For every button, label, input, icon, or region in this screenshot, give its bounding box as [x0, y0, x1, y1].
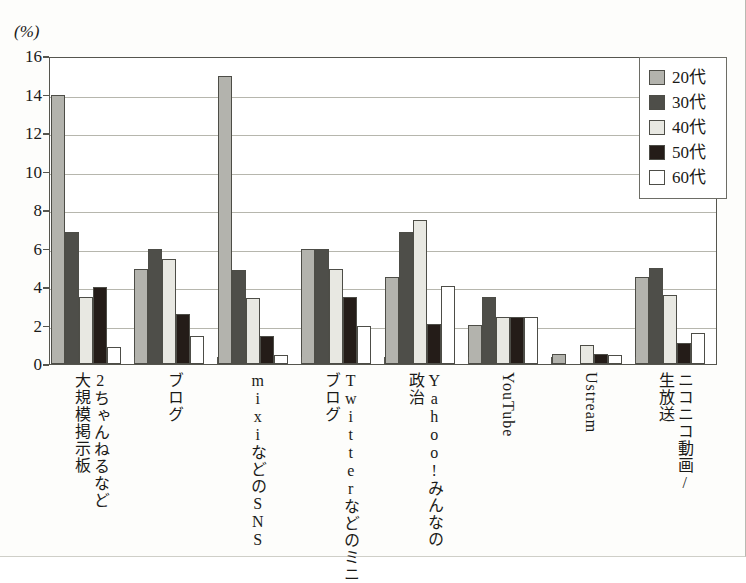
- bar: [510, 317, 524, 364]
- x-category-label: Yahoo!みんなの政治: [383, 372, 467, 550]
- legend-label: 50代: [672, 144, 706, 161]
- legend: 20代30代40代50代60代: [639, 57, 727, 199]
- legend-swatch-icon: [649, 170, 665, 185]
- legend-label: 30代: [672, 94, 706, 111]
- bar-group: [468, 58, 552, 364]
- bar: [677, 343, 691, 364]
- x-category-label-line: mixiなどのSNS: [248, 372, 267, 549]
- legend-swatch-icon: [649, 95, 665, 110]
- bar: [468, 325, 482, 364]
- bar: [218, 76, 232, 364]
- bar: [232, 270, 246, 364]
- x-category-label-line: 政治: [406, 372, 425, 406]
- bar: [79, 297, 93, 364]
- bar: [162, 259, 176, 364]
- legend-label: 20代: [672, 69, 706, 86]
- x-category-label-line: ニコニコ動画/: [675, 372, 694, 492]
- bar: [93, 287, 107, 364]
- bar-group: [217, 58, 301, 364]
- bar-group: [384, 58, 468, 364]
- bar-group: [551, 58, 635, 364]
- bar: [343, 297, 357, 364]
- bar: [580, 345, 594, 364]
- bar: [315, 249, 329, 365]
- plot-area: [49, 57, 717, 365]
- x-category-label: Twitterなどのミニブログ: [300, 372, 384, 550]
- legend-item: 60代: [649, 165, 717, 190]
- x-category-label-line: ブログ: [165, 372, 184, 423]
- bar: [301, 249, 315, 365]
- legend-label: 60代: [672, 169, 706, 186]
- y-axis-unit-label: (%): [14, 22, 39, 42]
- x-category-label-line: Ustream: [582, 372, 601, 433]
- legend-item: 20代: [649, 65, 717, 90]
- bar: [663, 295, 677, 364]
- x-category-label: Ustream: [550, 372, 634, 550]
- x-category-label: ブログ: [133, 372, 217, 550]
- x-category-label-line: Yahoo!みんなの: [425, 372, 444, 548]
- legend-item: 50代: [649, 140, 717, 165]
- bar: [148, 249, 162, 365]
- bar: [594, 354, 608, 364]
- bar: [649, 268, 663, 364]
- bar: [260, 336, 274, 364]
- bar: [190, 336, 204, 364]
- bar: [399, 232, 413, 364]
- legend-swatch-icon: [649, 70, 665, 85]
- bar: [524, 317, 538, 364]
- x-category-label: 2ちゃんねるなど大規模掲示板: [49, 372, 133, 550]
- legend-item: 30代: [649, 90, 717, 115]
- bar: [329, 269, 343, 364]
- x-tick-mark: [384, 357, 385, 364]
- bar: [51, 95, 65, 365]
- x-category-label-line: 2ちゃんねるなど: [91, 372, 110, 509]
- legend-label: 40代: [672, 119, 706, 136]
- bar: [496, 317, 510, 364]
- bar-group: [134, 58, 218, 364]
- bar: [552, 354, 566, 364]
- bar: [427, 324, 441, 364]
- x-category-label: ニコニコ動画/生放送: [634, 372, 718, 550]
- x-tick-mark: [551, 357, 552, 364]
- bar: [441, 286, 455, 364]
- bar: [246, 298, 260, 364]
- bar: [274, 355, 288, 364]
- bar: [65, 232, 79, 364]
- bar: [107, 347, 121, 364]
- x-category-label-line: 大規模掲示板: [72, 372, 91, 474]
- y-axis-tick-marks: [0, 57, 49, 365]
- x-tick-mark: [217, 357, 218, 364]
- legend-swatch-icon: [649, 120, 665, 135]
- x-category-label-line: YouTube: [499, 372, 518, 437]
- legend-item: 40代: [649, 115, 717, 140]
- bar-group: [301, 58, 385, 364]
- x-category-label-line: Twitterなどのミニ: [341, 372, 360, 583]
- bar: [176, 314, 190, 364]
- bar: [691, 333, 705, 364]
- x-category-label: YouTube: [467, 372, 551, 550]
- bar: [608, 355, 622, 364]
- bar: [413, 220, 427, 364]
- bar-group: [50, 58, 134, 364]
- x-category-label-line: 生放送: [656, 372, 675, 423]
- x-tick-mark: [635, 357, 636, 364]
- x-tick-mark: [468, 357, 469, 364]
- bar: [385, 277, 399, 364]
- x-category-label-line: ブログ: [322, 372, 341, 423]
- bar: [482, 297, 496, 364]
- x-tick-mark: [134, 357, 135, 364]
- legend-swatch-icon: [649, 145, 665, 160]
- bar: [357, 326, 371, 365]
- x-tick-mark: [301, 357, 302, 364]
- bar: [134, 269, 148, 364]
- x-axis-category-labels: 2ちゃんねるなど大規模掲示板ブログmixiなどのSNSTwitterなどのミニブ…: [49, 372, 717, 552]
- x-category-label: mixiなどのSNS: [216, 372, 300, 550]
- bar: [635, 277, 649, 364]
